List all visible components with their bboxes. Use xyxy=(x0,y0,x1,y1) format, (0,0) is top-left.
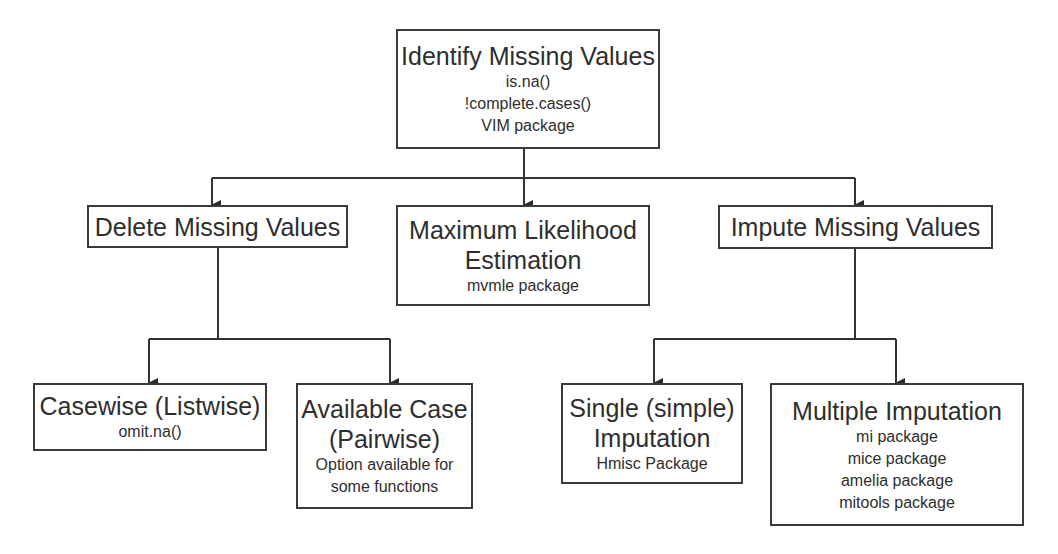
box-title: Maximum Likelihood xyxy=(409,215,637,245)
multiple-imputation-box: Multiple Imputation mi package mice pack… xyxy=(770,383,1024,526)
box-detail: mitools package xyxy=(839,492,955,514)
box-detail: Option available for xyxy=(316,454,454,476)
box-detail: some functions xyxy=(331,476,439,498)
box-title: (Pairwise) xyxy=(329,424,440,454)
maximum-likelihood-box: Maximum Likelihood Estimation mvmle pack… xyxy=(396,205,650,306)
box-title: Single (simple) xyxy=(569,393,734,423)
box-title: Casewise (Listwise) xyxy=(40,391,261,421)
box-title: Available Case xyxy=(301,394,467,424)
box-title: Imputation xyxy=(594,423,711,453)
single-imputation-box: Single (simple) Imputation Hmisc Package xyxy=(561,383,743,484)
box-detail: Hmisc Package xyxy=(596,453,707,475)
box-title: Impute Missing Values xyxy=(731,212,981,242)
box-detail: omit.na() xyxy=(118,421,181,443)
available-case-box: Available Case (Pairwise) Option availab… xyxy=(296,383,473,509)
box-detail: mice package xyxy=(848,448,947,470)
box-detail: mvmle package xyxy=(467,275,579,297)
box-detail: amelia package xyxy=(841,470,953,492)
identify-missing-values-box: Identify Missing Values is.na() !complet… xyxy=(396,29,660,149)
box-detail: is.na() xyxy=(506,71,550,93)
box-title: Delete Missing Values xyxy=(95,212,340,242)
box-title: Estimation xyxy=(465,245,582,275)
box-title: Identify Missing Values xyxy=(401,41,655,71)
impute-missing-values-box: Impute Missing Values xyxy=(718,205,993,249)
delete-missing-values-box: Delete Missing Values xyxy=(87,205,348,248)
casewise-box: Casewise (Listwise) omit.na() xyxy=(33,383,267,451)
box-title: Multiple Imputation xyxy=(792,396,1002,426)
box-detail: VIM package xyxy=(481,115,574,137)
box-detail: mi package xyxy=(856,426,938,448)
box-detail: !complete.cases() xyxy=(465,93,591,115)
